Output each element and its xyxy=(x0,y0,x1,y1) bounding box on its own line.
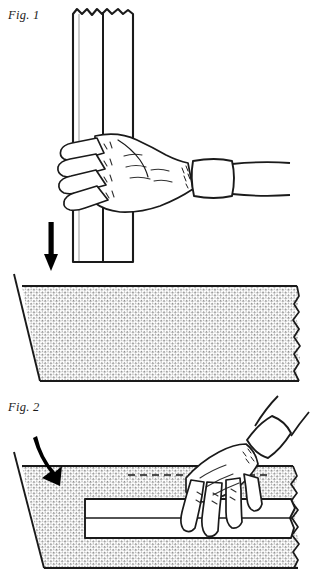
forearm-sleeve xyxy=(232,162,290,196)
figures-drawing-layer xyxy=(0,0,312,584)
cuff-wristband xyxy=(192,159,234,198)
figure-2-group xyxy=(14,396,309,568)
hand-grip-illustration xyxy=(58,134,193,212)
hand-back xyxy=(95,134,193,212)
finger-middle-2 xyxy=(202,482,222,536)
patent-figure-page: Fig. 1 Fig. 2 xyxy=(0,0,312,584)
downward-arrow-icon xyxy=(44,222,58,271)
stippled-surface-fig1 xyxy=(14,274,300,381)
figure-1-group xyxy=(14,9,300,381)
